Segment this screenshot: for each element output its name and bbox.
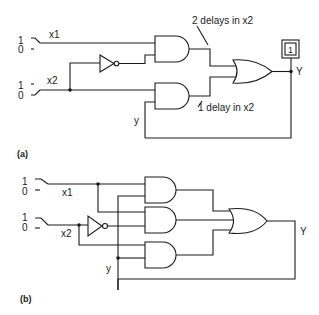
logic-circuit-diagram: 1 0 x1 1 0 x2 y Y (0, 0, 319, 315)
switch-x2-low-label-b: 0 (22, 222, 28, 233)
circuit-b: 1 0 x1 1 0 x2 y (20, 176, 307, 304)
switch-x2[interactable] (31, 90, 40, 95)
switch-x2-low-label: 0 (18, 90, 24, 101)
input-x1-label: x1 (49, 29, 60, 40)
output-Y-label-b: Y (300, 226, 307, 237)
output-indicator-value: 1 (288, 45, 293, 55)
circuit-a: 1 0 x1 1 0 x2 y Y (17, 15, 303, 159)
input-x2-label-b: x2 (61, 228, 72, 239)
annotation-1-delay: 1 delay in x2 (198, 102, 255, 113)
annotation-2-delays: 2 delays in x2 (192, 15, 254, 26)
switch-x2-b[interactable] (35, 218, 48, 225)
or-gate-a (233, 60, 272, 84)
and-gate-b1 (145, 177, 176, 203)
caption-a: (a) (17, 149, 28, 159)
feedback-y-label: y (134, 115, 139, 126)
switch-x1-low-label-b: 0 (22, 186, 28, 197)
output-Y-label: Y (296, 66, 303, 77)
input-x2-label: x2 (47, 75, 58, 86)
or-gate-b (229, 209, 267, 234)
feedback-y-label-b: y (106, 263, 111, 274)
caption-b: (b) (20, 294, 32, 304)
input-x1-label-b: x1 (62, 187, 73, 198)
not-gate-a (100, 55, 114, 72)
switch-x1-low-label: 0 (18, 44, 24, 55)
switch-x1-b[interactable] (35, 179, 48, 184)
switch-x1[interactable] (31, 38, 40, 43)
not-gate-b (88, 216, 102, 236)
and-gate-b3 (145, 242, 176, 268)
and-gate-a2 (155, 83, 189, 109)
and-gate-a1 (155, 36, 189, 62)
and-gate-b2 (145, 207, 176, 233)
